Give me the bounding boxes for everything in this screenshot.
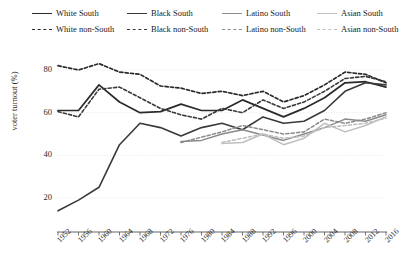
plot-area: voter turnout (%) 80604020 1952195619601… (0, 0, 412, 274)
y-tick-label: 20 (28, 192, 52, 202)
chart-figure: White SouthBlack SouthLatino SouthAsian … (0, 0, 412, 274)
y-tick-label: 60 (28, 107, 52, 117)
y-tick-label: 80 (28, 64, 52, 74)
y-tick-label: 40 (28, 149, 52, 159)
series-line-black-south (58, 83, 386, 211)
